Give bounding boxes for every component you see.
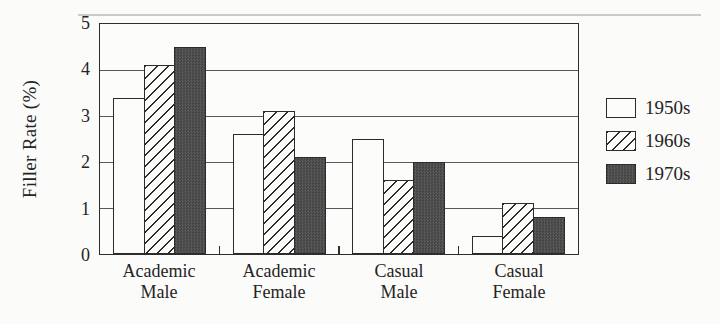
scan-artifact-line — [78, 14, 701, 16]
legend-label: 1970s — [645, 163, 690, 185]
x-axis-category-labels: AcademicMaleAcademicFemaleCasualMaleCasu… — [99, 261, 579, 303]
bar-group-casual-female — [459, 24, 579, 254]
legend-item-1970s: 1970s — [606, 163, 690, 184]
x-category-label-academic-male: AcademicMale — [99, 261, 219, 303]
y-tick-label-5: 5 — [10, 12, 90, 34]
legend-label: 1960s — [645, 130, 690, 152]
bar-1950s-academic-male — [113, 98, 145, 254]
x-category-label-casual-male: CasualMale — [339, 261, 459, 303]
legend-label: 1950s — [645, 97, 690, 119]
bar-1970s-academic-male — [174, 47, 206, 254]
bar-1960s-casual-male — [383, 180, 415, 254]
bar-group-academic-male — [100, 24, 220, 254]
y-axis-title: Filler Rate (%) — [19, 80, 41, 198]
legend-swatch-dark-gray — [606, 164, 636, 184]
legend-item-1950s: 1950s — [606, 97, 690, 118]
x-category-label-casual-female: CasualFemale — [459, 261, 579, 303]
y-tick-label-3: 3 — [10, 105, 90, 127]
y-tick-label-4: 4 — [10, 58, 90, 80]
x-category-label-line: Academic — [219, 261, 339, 282]
legend: 1950s1960s1970s — [606, 97, 690, 196]
bar-1960s-academic-female — [263, 111, 295, 254]
x-category-label-line: Academic — [99, 261, 219, 282]
x-category-label-line: Male — [99, 282, 219, 303]
bar-1970s-casual-female — [533, 217, 565, 254]
x-category-label-academic-female: AcademicFemale — [219, 261, 339, 303]
bar-1960s-casual-female — [502, 203, 534, 254]
plot-area — [99, 23, 579, 255]
x-axis-boundary-tick — [458, 246, 460, 254]
bar-chart-figure: Filler Rate (%) 012345 AcademicMaleAcade… — [0, 0, 720, 324]
bar-1970s-casual-male — [413, 162, 445, 254]
bar-1950s-academic-female — [233, 134, 265, 254]
bar-1950s-casual-male — [352, 139, 384, 254]
legend-swatch-white — [606, 98, 636, 118]
x-category-label-line: Female — [219, 282, 339, 303]
bar-1950s-casual-female — [472, 236, 504, 254]
x-category-label-line: Casual — [459, 261, 579, 282]
y-tick-label-1: 1 — [10, 198, 90, 220]
bar-1970s-academic-female — [294, 157, 326, 254]
bar-group-academic-female — [220, 24, 340, 254]
bar-group-casual-male — [339, 24, 459, 254]
x-category-label-line: Male — [339, 282, 459, 303]
legend-item-1960s: 1960s — [606, 130, 690, 151]
x-category-label-line: Female — [459, 282, 579, 303]
bar-groups — [100, 24, 578, 254]
x-axis-boundary-tick — [219, 246, 221, 254]
x-category-label-line: Casual — [339, 261, 459, 282]
x-axis-boundary-tick — [338, 246, 340, 254]
legend-swatch-diagonal-hatch — [606, 131, 636, 151]
bar-1960s-academic-male — [144, 65, 176, 254]
y-tick-label-2: 2 — [10, 151, 90, 173]
y-tick-label-0: 0 — [10, 244, 90, 266]
